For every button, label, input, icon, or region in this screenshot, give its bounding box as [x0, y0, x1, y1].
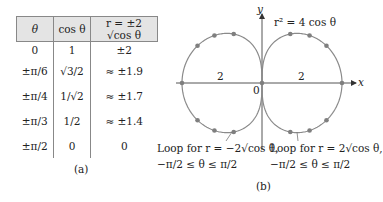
plot-point: [288, 130, 293, 135]
plot-point: [288, 32, 293, 37]
plot-point: [231, 130, 236, 135]
left-loop-annotation: Loop for r = −2√cos θ,: [157, 142, 279, 154]
x-axis-label: x: [358, 76, 364, 88]
plot-point: [195, 118, 200, 123]
plot-point: [324, 43, 329, 48]
right-loop-annotation: Loop for r = 2√cos θ,: [270, 142, 383, 154]
right-distance-label: 2: [298, 70, 305, 82]
left-distance-label: 2: [217, 70, 224, 82]
left-pointer: [226, 132, 232, 141]
equation-label: r² = 4 cos θ: [274, 16, 336, 28]
plot-point: [180, 81, 185, 86]
left-loop-range: −π/2 ≤ θ ≤ π/2: [157, 158, 237, 170]
right-pointer: [297, 132, 298, 141]
plot-point: [212, 33, 217, 38]
plot-point: [212, 128, 217, 133]
right-loop-range: −π/2 ≤ θ ≤ π/2: [270, 158, 350, 170]
plot-point: [195, 43, 200, 48]
plot-point: [324, 118, 329, 123]
plot-point: [340, 81, 345, 86]
plot-point: [231, 32, 236, 37]
plot-point: [307, 33, 312, 38]
origin-label: 0: [253, 84, 260, 96]
plot-point: [307, 128, 312, 133]
graph-caption: (b): [256, 180, 271, 192]
y-axis-label: y: [257, 3, 263, 15]
origin-point: [260, 81, 265, 86]
